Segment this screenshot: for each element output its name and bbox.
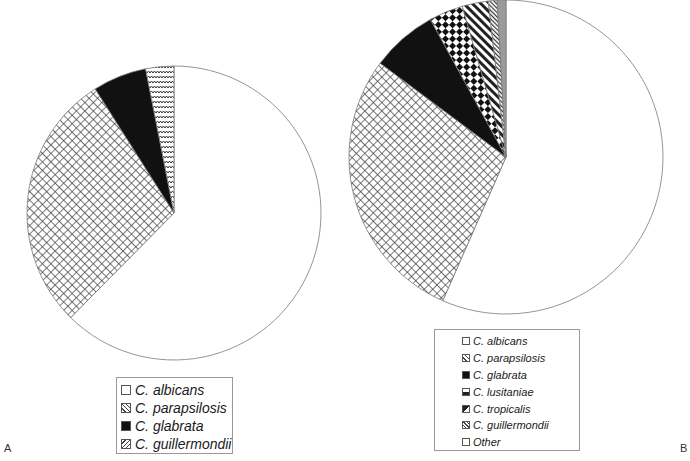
- legend-label: C. glabrata: [135, 418, 203, 434]
- legend-label: C. parapsilosis: [135, 400, 227, 416]
- legend-b: C. albicansC. parapsilosisC. glabrataC. …: [434, 329, 580, 451]
- legend-item: C. tropicalis: [462, 400, 579, 417]
- legend-label: C. tropicalis: [473, 403, 530, 415]
- pie-chart-a: [27, 66, 321, 360]
- legend-swatch-white-icon: [462, 438, 470, 446]
- legend-item: C. glabrata: [121, 417, 232, 435]
- legend-swatch-dots-icon: [462, 388, 470, 396]
- legend-swatch-cross-icon: [462, 354, 470, 362]
- legend-item: Other: [462, 434, 579, 451]
- legend-item: C. lusitaniae: [462, 383, 579, 400]
- panel-label-b: B: [680, 442, 687, 454]
- legend-swatch-cross-icon: [121, 403, 131, 413]
- legend-item: C. parapsilosis: [121, 399, 232, 417]
- legend-label: C. albicans: [135, 382, 204, 398]
- legend-swatch-white-icon: [121, 385, 131, 395]
- legend-label: Other: [473, 436, 501, 448]
- legend-item: C. albicans: [462, 333, 579, 350]
- panel-label-a: A: [4, 442, 11, 454]
- legend-item: C. albicans: [121, 381, 232, 399]
- legend-item: C. guillermondii: [462, 417, 579, 434]
- legend-swatch-thin-icon: [462, 421, 470, 429]
- pie-chart-b: [349, 0, 663, 314]
- legend-swatch-stripes-icon: [462, 405, 470, 413]
- legend-label: C. parapsilosis: [473, 352, 545, 364]
- legend-label: C. glabrata: [473, 369, 527, 381]
- legend-swatch-zigzag-icon: [121, 439, 131, 449]
- pie-charts: [0, 0, 690, 461]
- legend-swatch-black-icon: [121, 421, 131, 431]
- legend-label: C. lusitaniae: [473, 386, 534, 398]
- legend-swatch-black-icon: [462, 371, 470, 379]
- legend-item: C. guillermondii: [121, 435, 232, 453]
- legend-swatch-white-icon: [462, 337, 470, 345]
- legend-item: C. parapsilosis: [462, 350, 579, 367]
- legend-item: C. glabrata: [462, 367, 579, 384]
- legend-a: C. albicansC. parapsilosisC. glabrataC. …: [116, 377, 233, 454]
- legend-label: C. albicans: [473, 335, 527, 347]
- legend-label: C. guillermondii: [473, 419, 549, 431]
- legend-label: C. guillermondii: [135, 436, 231, 452]
